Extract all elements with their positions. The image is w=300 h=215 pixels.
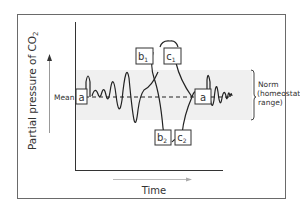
b1-c1-arc [160,41,178,47]
box-a-right: a [195,89,211,104]
norm-label-line-3: range) [258,98,283,107]
box-b1: b1 [136,48,153,64]
box-a-left-label: a [78,92,84,103]
y-axis-label-subscript: 2 [32,31,40,35]
norm-label-line-2: (homeostatic [257,89,300,98]
box-c2: c2 [175,130,191,145]
x-arrow-head-icon [186,178,192,182]
svg-text:Partial pressure of CO2: Partial pressure of CO2 [26,31,40,150]
box-b2-subscript: 2 [163,137,167,144]
mean-label: Mean [54,93,75,102]
homeostasis-diagram: a b1 c1 b2 c2 a Mean Norm (homeostatic r… [0,0,300,215]
y-arrow-head-icon [47,54,52,61]
y-axis-label: Partial pressure of CO [26,36,38,150]
box-a-right-label: a [200,92,206,103]
box-a-left: a [76,89,87,104]
box-c2-subscript: 2 [183,137,187,144]
y-axis-label-group: Partial pressure of CO2 [26,31,40,150]
box-c1-subscript: 1 [172,56,176,63]
norm-label-line-1: Norm [258,80,278,89]
box-b2: b2 [155,130,171,145]
x-axis-label: Time [141,185,166,196]
box-b1-subscript: 1 [144,56,148,63]
box-c1: c1 [164,48,181,64]
